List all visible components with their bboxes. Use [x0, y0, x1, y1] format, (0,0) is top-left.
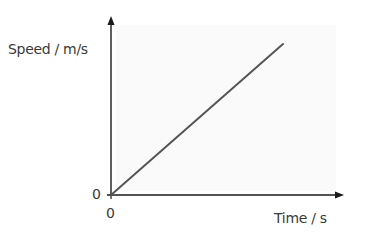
graph-canvas — [0, 0, 367, 240]
y-axis-label: Speed / m/s — [8, 41, 88, 57]
speed-time-graph: Speed / m/s Time / s 0 0 — [0, 0, 367, 240]
x-axis-label: Time / s — [274, 210, 327, 226]
x-origin-label: 0 — [106, 205, 115, 221]
x-axis-arrow-icon — [335, 192, 344, 199]
y-origin-label: 0 — [92, 186, 101, 202]
y-axis-arrow-icon — [108, 16, 115, 25]
plot-area — [116, 25, 336, 191]
